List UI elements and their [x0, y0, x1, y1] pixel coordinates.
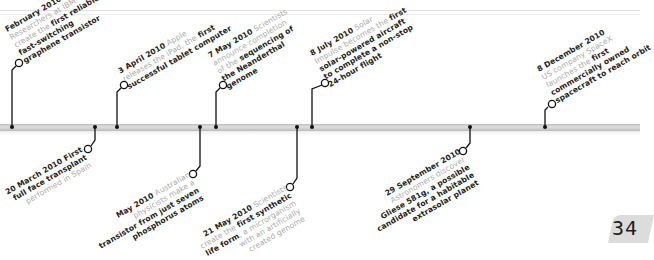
- connector-feb: [12, 66, 16, 127]
- connector-may21: [293, 127, 297, 184]
- marker-feb: [15, 59, 22, 66]
- connector-sep: [466, 127, 470, 148]
- marker-dec: [548, 100, 555, 107]
- connector-dec: [545, 107, 548, 127]
- connector-jul: [312, 85, 322, 127]
- connector-apr: [117, 88, 121, 127]
- connector-mayaus: [196, 127, 200, 171]
- connector-may7: [216, 88, 220, 127]
- connector-mar: [91, 127, 95, 146]
- marker-mar: [84, 145, 91, 152]
- page-number: 34: [612, 216, 638, 240]
